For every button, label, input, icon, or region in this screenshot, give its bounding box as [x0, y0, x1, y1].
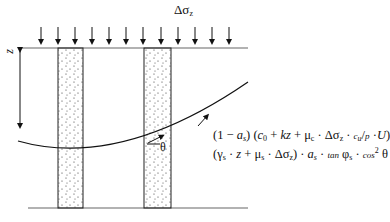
formula-line-1: (1 − as) (c0 + kz + μc · Δσz · cu/p ·U) [213, 128, 390, 143]
load-label: Δσz [174, 2, 193, 18]
depth-label: z [2, 49, 17, 54]
stone-column-1 [58, 48, 83, 208]
formula-line-2: (γs · z + μs · Δσz) · as · tan φs · cos2… [213, 146, 388, 162]
angle-label: θ [160, 140, 166, 155]
tangent-arrow [198, 116, 207, 126]
load-arrows [41, 27, 229, 42]
stone-column-2 [144, 48, 171, 208]
